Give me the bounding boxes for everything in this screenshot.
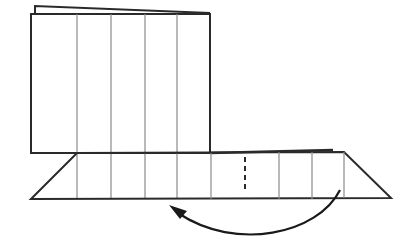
- upper-panel: [31, 14, 210, 153]
- lower-creases: [211, 152, 344, 199]
- fold-arrow: [178, 190, 340, 234]
- origami-diagram: [0, 0, 413, 251]
